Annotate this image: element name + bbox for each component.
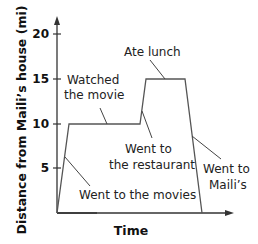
annotation-ate-lunch: Ate lunch [124,45,181,59]
distance-time-chart: 5 10 15 20 Distance from Maili’s house (… [0,0,258,244]
ytick-label-20: 20 [32,27,49,41]
annotation-went-to-mailis-line1: Went to [203,162,250,176]
leader-watched [100,108,107,124]
y-axis-label: Distance from Maili’s house (mi) [14,6,29,235]
leader-maili [192,136,221,159]
annotation-went-to-restaurant-line1: Went to [125,142,172,156]
leader-movies [65,157,90,186]
annotation-watched-movie-line2: the movie [64,88,124,102]
ytick-label-5: 5 [41,161,49,175]
annotation-went-to-movies: Went to the movies [79,188,196,202]
y-axis-arrow-icon [54,16,60,25]
ytick-label-15: 15 [32,72,49,86]
x-axis-arrow-icon [225,210,234,216]
leader-lunch [150,60,165,79]
annotation-watched-movie-line1: Watched [67,73,119,87]
x-axis-label: Time [114,223,148,238]
annotation-went-to-restaurant-line2: the restaurant [109,158,195,172]
leader-restaurant [142,111,152,138]
ytick-label-10: 10 [32,117,49,131]
annotation-went-to-mailis-line2: Maili’s [209,178,247,192]
